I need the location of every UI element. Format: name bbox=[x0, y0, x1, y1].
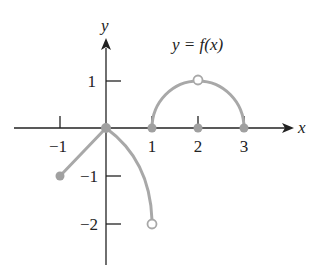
y-tick-label: −1 bbox=[80, 167, 98, 186]
x-tick-label: 3 bbox=[240, 137, 249, 156]
closed-point bbox=[194, 124, 203, 133]
y-ticks bbox=[106, 81, 121, 224]
open-point bbox=[148, 220, 157, 229]
x-axis-label: x bbox=[297, 118, 306, 137]
closed-point bbox=[240, 124, 249, 133]
function-graph: −1 1 2 3 1 −1 −2 x y y = f(x) bbox=[0, 0, 312, 270]
x-tick-label: −1 bbox=[49, 137, 67, 156]
y-tick-label: 1 bbox=[88, 72, 97, 91]
downward-curve bbox=[106, 128, 152, 220]
closed-point bbox=[56, 172, 65, 181]
y-tick-label: −2 bbox=[80, 215, 98, 234]
chart-title: y = f(x) bbox=[170, 35, 223, 54]
x-tick-label: 1 bbox=[148, 137, 157, 156]
y-axis-label: y bbox=[99, 16, 109, 35]
closed-point bbox=[101, 123, 111, 133]
closed-point bbox=[148, 124, 157, 133]
open-point bbox=[194, 76, 203, 85]
x-tick-label: 2 bbox=[194, 137, 203, 156]
